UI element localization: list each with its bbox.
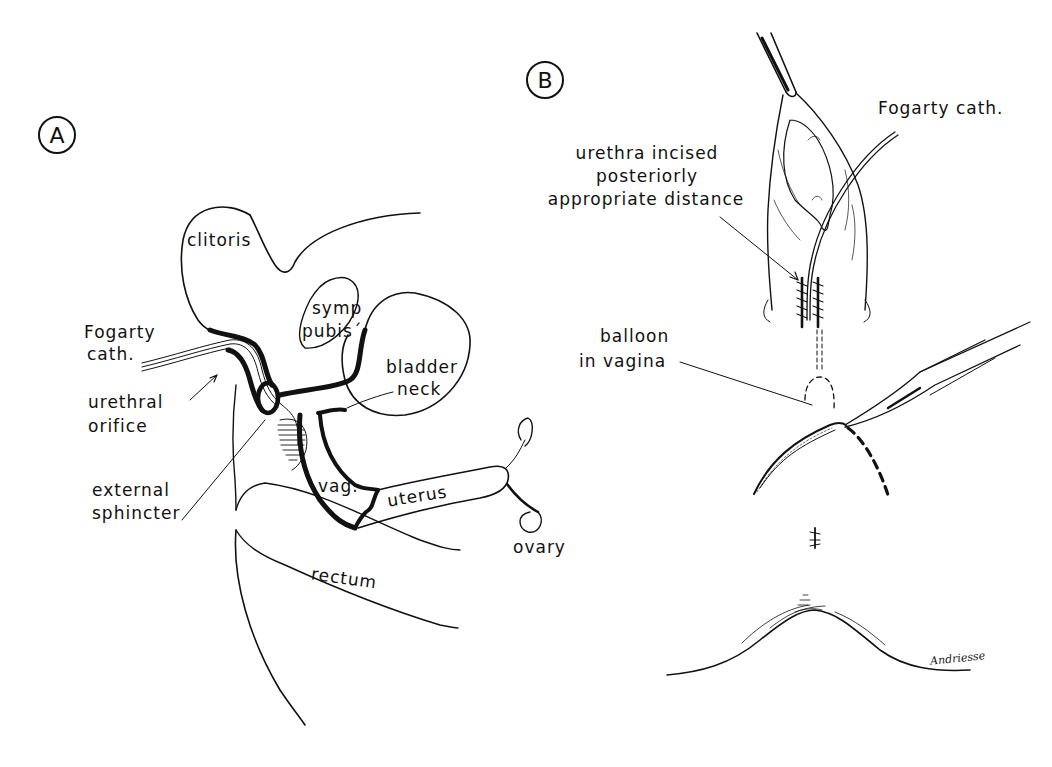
label-vag: vag. xyxy=(318,476,359,496)
label-clitoris: clitoris xyxy=(187,230,251,250)
label-fogarty-b: Fogarty cath. xyxy=(878,98,1004,118)
label-external: external xyxy=(92,480,170,500)
label-fogarty-a-2: cath. xyxy=(87,344,135,364)
label-incised-2: posteriorly xyxy=(527,166,767,186)
label-ovary: ovary xyxy=(513,537,566,557)
label-balloon: balloon xyxy=(600,326,669,346)
panel-a-letter: A xyxy=(49,123,64,148)
label-urethral: urethral xyxy=(88,392,163,412)
label-sphincter: sphincter xyxy=(92,503,180,523)
label-bladder: bladder xyxy=(386,357,458,377)
label-symp: symp xyxy=(312,298,362,318)
label-fogarty-a-1: Fogarty xyxy=(84,322,156,342)
label-incised-1: urethra incised xyxy=(527,143,767,163)
panel-b-badge: B xyxy=(526,61,564,99)
label-incised-3: appropriate distance xyxy=(521,189,771,209)
panel-a-drawing xyxy=(142,207,541,725)
label-in-vagina: in vagina xyxy=(579,351,666,371)
label-neck: neck xyxy=(397,379,441,399)
panel-a-badge: A xyxy=(38,116,76,154)
label-pubis: pubis´ xyxy=(302,321,362,341)
panel-b-drawing xyxy=(667,33,1030,675)
label-orifice: orifice xyxy=(88,416,148,436)
panel-b-letter: B xyxy=(537,68,552,93)
